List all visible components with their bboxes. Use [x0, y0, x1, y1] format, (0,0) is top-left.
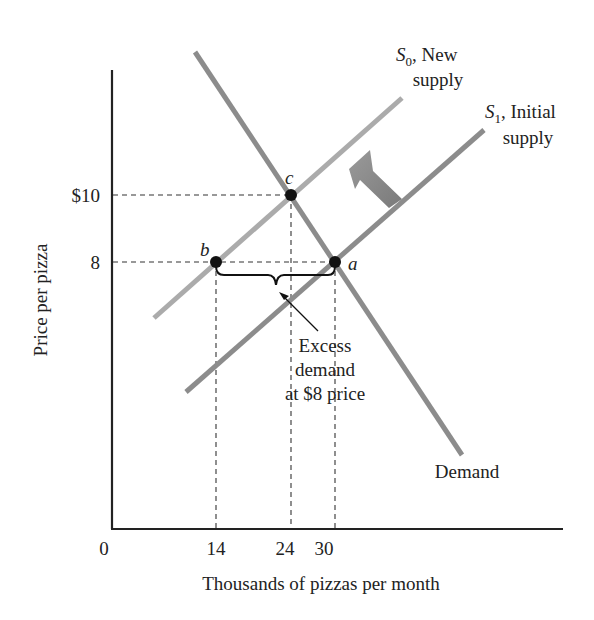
supply-demand-chart: c b a $10 8 0 14 24 30 Thousands of pizz… [0, 0, 594, 620]
excess-demand-line2: demand [295, 359, 356, 380]
s0-label-symbol: S [396, 44, 406, 65]
s1-label-symbol: S [485, 101, 495, 122]
point-b [210, 256, 222, 268]
point-c [285, 189, 297, 201]
s0-label: S0, New [396, 44, 458, 69]
point-b-label: b [200, 239, 210, 260]
y-tick-8: 8 [91, 252, 101, 273]
s0-label-line2: supply [413, 69, 464, 90]
s1-label-line2: supply [503, 127, 554, 148]
new-supply-curve [154, 98, 402, 318]
point-a-label: a [348, 253, 358, 274]
s1-label-text: , Initial [501, 101, 556, 122]
y-axis-title: Price per pizza [30, 243, 51, 356]
demand-label: Demand [435, 461, 500, 482]
pointer-arrowhead-icon [279, 292, 289, 300]
s1-label: S1, Initial [485, 101, 556, 126]
x-axis-title: Thousands of pizzas per month [202, 573, 440, 594]
x-tick-30: 30 [315, 538, 334, 559]
point-c-label: c [285, 167, 294, 188]
excess-demand-brace [216, 266, 335, 285]
y-tick-10: $10 [72, 185, 101, 206]
shift-arrow-icon [349, 150, 402, 208]
point-a [329, 256, 341, 268]
x-tick-14: 14 [207, 538, 227, 559]
excess-demand-line3: at $8 price [285, 383, 365, 404]
excess-demand-line1: Excess [299, 335, 352, 356]
x-tick-24: 24 [276, 538, 296, 559]
x-tick-0: 0 [99, 538, 109, 559]
s0-label-text: , New [412, 44, 458, 65]
pointer-line [283, 296, 318, 331]
